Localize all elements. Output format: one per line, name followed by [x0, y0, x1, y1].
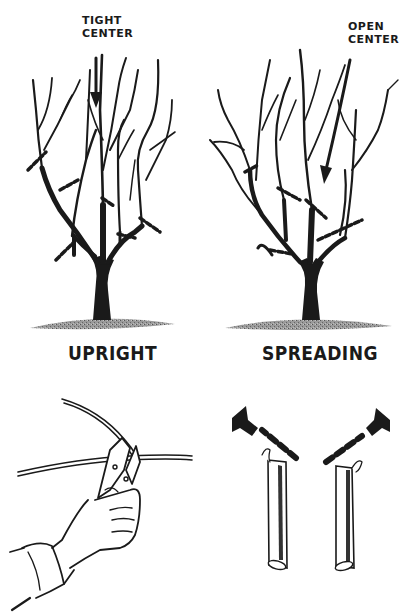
upright-annotation-line1: TIGHT	[82, 14, 133, 27]
spreading-tree	[210, 50, 398, 330]
hand-with-shears	[10, 399, 192, 610]
spreading-annotation-line1: OPEN	[348, 20, 399, 33]
upright-caption: UPRIGHT	[68, 342, 157, 364]
spreading-caption: SPREADING	[262, 342, 378, 364]
right-branch-stub	[336, 466, 354, 568]
spreading-ground	[225, 319, 392, 330]
upright-tree	[28, 55, 175, 329]
pruning-illustration	[0, 0, 410, 614]
left-branch-stub	[268, 460, 287, 568]
bud-direction-stubs	[232, 406, 390, 572]
upright-annotation-line2: CENTER	[82, 27, 133, 40]
spreading-annotation-line2: CENTER	[348, 33, 399, 46]
right-arrow	[366, 408, 390, 436]
left-arrow	[232, 406, 258, 436]
upright-trunk	[92, 256, 114, 320]
spreading-annotation: OPEN CENTER	[348, 20, 399, 46]
upright-annotation: TIGHT CENTER	[82, 14, 133, 40]
upright-ground	[30, 319, 175, 329]
spreading-trunk	[298, 258, 324, 320]
